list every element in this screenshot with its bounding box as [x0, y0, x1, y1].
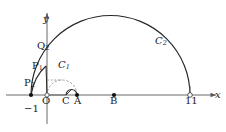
label-b: B — [110, 96, 117, 106]
label-curve-c2: C2 — [155, 36, 167, 46]
y-axis — [45, 13, 49, 124]
label-curve-c1-base: C — [58, 59, 66, 70]
label-q2-base: Q — [37, 40, 45, 51]
label-curve-c1: C1 — [58, 60, 70, 70]
curve-c1-dashed — [47, 80, 77, 95]
label-minus-one: −1 — [24, 104, 39, 114]
label-curve-c2-sub: 2 — [163, 39, 167, 47]
label-p2-sub: 2 — [31, 81, 35, 89]
label-eleven: 11 — [185, 96, 198, 106]
label-curve-c2-base: C — [155, 35, 163, 46]
y-axis-label: y — [43, 14, 49, 24]
label-q2-sub: 2 — [45, 44, 49, 52]
label-q2: Q2 — [37, 41, 49, 51]
label-curve-c1-sub: 1 — [66, 63, 70, 71]
label-p1-sub: 1 — [39, 64, 43, 72]
curve-c2 — [31, 16, 190, 95]
label-p2-base: P — [24, 77, 31, 88]
x-axis-label: x — [215, 90, 221, 100]
label-p1: P1 — [32, 61, 43, 71]
label-p1-base: P — [32, 60, 39, 71]
label-p2: P2 — [24, 78, 35, 88]
label-a: A — [74, 96, 81, 106]
marker-p2 — [29, 93, 33, 97]
geometry-figure: y x O −1 C A B 11 P2 P1 Q2 C1 C2 — [0, 0, 226, 132]
label-c: C — [62, 96, 70, 106]
label-origin: O — [42, 96, 50, 106]
